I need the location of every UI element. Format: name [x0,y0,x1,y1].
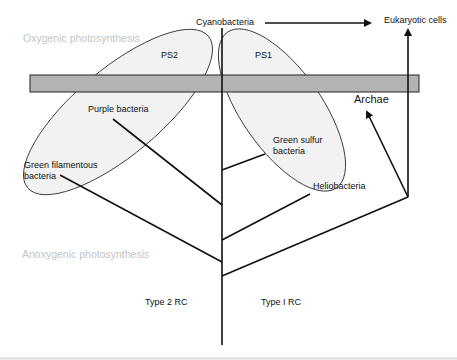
cyanobacteria-label: Cyanobacteria [196,17,254,28]
branch-purple-bacteria [113,119,222,205]
branch-heliobacteria [222,194,310,240]
heliobacteria-label: Heliobacteria [313,181,366,192]
green-filamentous-label: Green filamentous bacteria [24,160,98,182]
anoxygenic-photosynthesis-label: Anoxygenic photosynthesis [22,249,149,260]
eukaryotic-cells-label: Eukaryotic cells [384,15,447,26]
ps1-label: PS1 [255,50,272,61]
branch-green-sulfur [222,154,265,170]
purple-bacteria-label: Purple bacteria [88,104,149,115]
green-sulfur-line1: Green sulfur [273,135,323,146]
green-sulfur-line2: bacteria [273,146,323,157]
ps2-label: PS2 [161,50,178,61]
archae-label: Archae [354,94,389,105]
membrane-bar [30,75,419,92]
type2-rc-label: Type 2 RC [145,297,188,308]
green-filamentous-line1: Green filamentous [24,160,98,171]
type1-rc-label: Type I RC [261,297,301,308]
green-sulfur-label: Green sulfur bacteria [273,135,323,157]
green-filamentous-line2: bacteria [24,171,98,182]
archae-arrow [367,112,408,197]
branch-eukaryote-archae [222,197,408,276]
oxygenic-photosynthesis-label: Oxygenic photosynthesis [23,33,140,44]
